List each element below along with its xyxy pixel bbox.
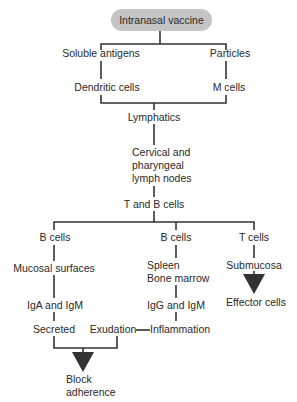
node-particles: Particles [210, 47, 250, 60]
node-t-and-b-cells: T and B cells [124, 198, 185, 211]
root-label: Intranasal vaccine [119, 14, 204, 26]
node-soluble-antigens: Soluble antigens [62, 47, 140, 60]
node-secreted: Secreted [33, 323, 75, 336]
node-b-cells-left: B cells [40, 231, 71, 244]
node-lymph-nodes-line2: pharyngeal [132, 159, 184, 172]
node-effector-cells: Effector cells [226, 296, 286, 309]
node-block-line1: Block [66, 373, 92, 386]
node-lymph-nodes-line3: lymph nodes [132, 172, 192, 185]
node-m-cells: M cells [213, 81, 246, 94]
root-node-intranasal-vaccine: Intranasal vaccine [111, 9, 212, 31]
node-iga-igm: IgA and IgM [27, 299, 83, 312]
node-lymphatics: Lymphatics [128, 111, 181, 124]
node-inflammation: Inflammation [150, 323, 210, 336]
node-mucosal-surfaces: Mucosal surfaces [13, 262, 95, 275]
node-lymph-nodes-line1: Cervical and [132, 146, 190, 159]
node-t-cells: T cells [239, 231, 269, 244]
node-dendritic-cells: Dendritic cells [74, 81, 139, 94]
node-bone-marrow: Bone marrow [147, 272, 209, 285]
node-submucosa: Submucosa [226, 259, 281, 272]
node-igg-igm: IgG and IgM [147, 299, 205, 312]
node-spleen: Spleen [147, 259, 180, 272]
arrow-down-icon [72, 352, 94, 372]
node-block-line2: adherence [66, 386, 116, 399]
node-exudation: Exudation [90, 323, 137, 336]
arrow-down-icon [243, 274, 265, 294]
node-b-cells-mid: B cells [161, 231, 192, 244]
